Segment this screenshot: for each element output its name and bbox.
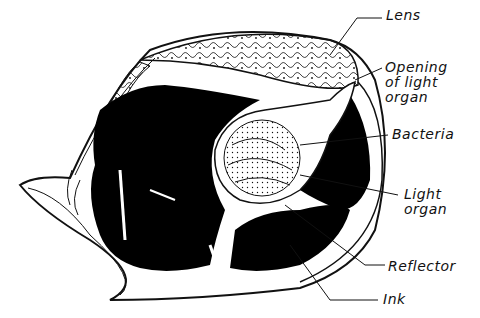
label-opening-of-light-organ: Opening of light organ [385, 60, 448, 105]
label-ink: Ink [383, 292, 406, 307]
label-lens: Lens [386, 8, 421, 23]
label-light-organ: Light organ [404, 187, 447, 217]
light-organ-diagram: Lens Opening of light organ Bacteria Lig… [0, 0, 480, 318]
label-bacteria: Bacteria [392, 127, 454, 142]
label-reflector: Reflector [388, 259, 456, 274]
